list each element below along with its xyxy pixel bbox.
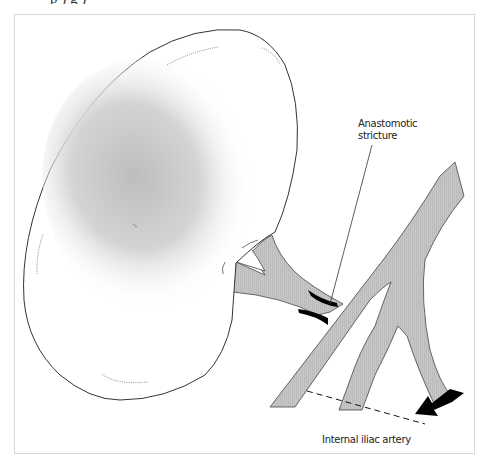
stricture-leader-line: [330, 145, 372, 304]
stricture-label-line1: Anastomotic: [358, 118, 438, 130]
internal-iliac-label: Internal iliac artery: [322, 434, 411, 446]
stricture-label: Anastomotic stricture: [358, 118, 438, 142]
stricture-label-line2: stricture: [358, 130, 438, 142]
kidney: [6, 24, 314, 400]
diagram-canvas: [0, 0, 487, 464]
